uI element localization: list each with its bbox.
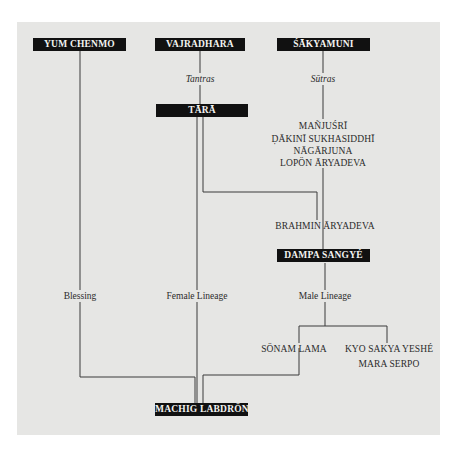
- node-vajradhara: VAJRADHARA: [155, 38, 245, 51]
- edge-label-male-lineage: Male Lineage: [297, 290, 354, 302]
- node-dampa-sangye: DAMPA SANGYÉ: [277, 249, 370, 262]
- node-manjusri: MAÑJUŚRĪ: [299, 120, 347, 132]
- edge-label-female-lineage: Female Lineage: [165, 290, 230, 302]
- node-brahmin-aryadeva: BRAHMIN ĀRYADEVA: [275, 220, 374, 232]
- connector-lines: [0, 0, 458, 452]
- node-nagarjuna: NĀGĀRJUNA: [294, 145, 353, 157]
- node-sonam-lama: SÖNAM LAMA: [261, 343, 327, 355]
- edge-label-tantras: Tantras: [184, 73, 217, 85]
- node-sakyamuni: ŚĀKYAMUNI: [277, 38, 370, 51]
- node-tara: TĀRĀ: [156, 104, 248, 117]
- edge-label-sutras: Sūtras: [309, 73, 337, 85]
- node-kyo-sakya-yeshe: KYO SAKYA YESHÉ: [345, 343, 433, 355]
- male-branch-line: [299, 326, 387, 343]
- node-yum-chenmo: YUM CHENMO: [33, 38, 126, 51]
- node-dakini: ḌĀKINĪ SUKHASIDDHĪ: [272, 133, 375, 145]
- node-lopon-aryadeva: LOPÖN ĀRYADEVA: [280, 157, 366, 169]
- sonam-to-machig-line: [203, 348, 299, 403]
- node-machig-labdron: MACHIG LABDRÖN: [155, 403, 248, 416]
- node-mara-serpo: MARA SERPO: [359, 358, 420, 370]
- edge-label-blessing: Blessing: [62, 290, 99, 302]
